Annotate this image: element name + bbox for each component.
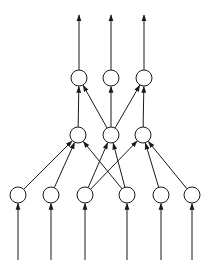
hidden-neuron-m0: [70, 127, 86, 143]
edge-m1-t0-arrow: [83, 85, 107, 128]
hidden-neuron-m2: [135, 127, 151, 143]
edge-b5-m2-arrow: [148, 142, 187, 189]
input-neuron-b4: [153, 187, 169, 203]
edge-b4-m2-arrow: [145, 143, 158, 187]
neural-network-diagram: [0, 0, 210, 271]
input-neuron-b1: [43, 187, 59, 203]
edge-b3-m0-arrow: [83, 142, 122, 189]
input-neuron-b3: [119, 187, 135, 203]
hidden-neuron-m1: [103, 127, 119, 143]
input-neuron-b2: [77, 187, 93, 203]
output-neuron-t0: [71, 70, 87, 86]
output-neuron-t2: [136, 70, 152, 86]
edge-b1-m0-arrow: [54, 143, 74, 188]
output-neuron-t1: [103, 70, 119, 86]
neurons: [10, 70, 200, 203]
edge-m0-t0-arrow: [78, 86, 79, 127]
edge-m1-t2-arrow: [115, 85, 140, 128]
input-neuron-b5: [184, 187, 200, 203]
edge-b2-m1-arrow: [88, 143, 107, 188]
input-neuron-b0: [10, 187, 26, 203]
edge-m2-t2-arrow: [143, 86, 144, 127]
